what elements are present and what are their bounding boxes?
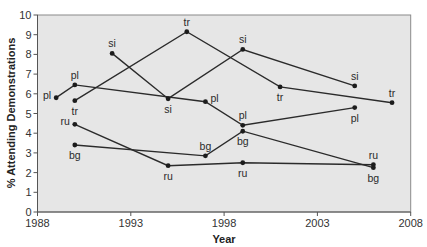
- point-label: pl: [43, 89, 51, 101]
- point-label: si: [351, 70, 359, 82]
- point-label: ru: [369, 149, 378, 161]
- y-tick-label: 8: [25, 48, 31, 60]
- y-tick-label: 5: [25, 108, 31, 120]
- data-point: [390, 100, 395, 105]
- data-point: [352, 105, 357, 110]
- point-label: pl: [351, 112, 359, 124]
- data-point: [72, 122, 77, 127]
- point-label: pl: [239, 109, 247, 121]
- data-point: [72, 83, 77, 88]
- data-point: [166, 163, 171, 168]
- point-label: bg: [237, 135, 249, 147]
- data-point: [240, 47, 245, 52]
- data-point: [371, 165, 376, 170]
- point-label: pl: [71, 69, 79, 81]
- data-point: [352, 84, 357, 89]
- point-label: tr: [184, 16, 191, 28]
- point-label: si: [108, 37, 116, 49]
- point-label: bg: [69, 149, 81, 161]
- x-tick-label: 1988: [25, 217, 49, 229]
- data-point: [54, 95, 59, 100]
- data-point: [72, 98, 77, 103]
- point-label: bg: [200, 140, 212, 152]
- data-point: [240, 160, 245, 165]
- y-tick-label: 9: [25, 29, 31, 41]
- data-point: [203, 153, 208, 158]
- data-point: [72, 143, 77, 148]
- point-label: tr: [389, 87, 396, 99]
- point-label: tr: [277, 91, 284, 103]
- point-label: bg: [368, 172, 380, 184]
- point-label: si: [239, 33, 247, 45]
- point-label: pl: [210, 92, 218, 104]
- y-tick-label: 7: [25, 68, 31, 80]
- point-label: tr: [72, 105, 79, 117]
- x-tick-label: 1993: [119, 217, 143, 229]
- y-tick-label: 2: [25, 167, 31, 179]
- x-tick-label: 2008: [398, 217, 422, 229]
- data-point: [110, 51, 115, 56]
- line-chart: 012345678910 19881993199820032008 plplpl…: [0, 0, 427, 247]
- data-point: [278, 85, 283, 90]
- x-tick-label: 2003: [305, 217, 329, 229]
- point-label: ru: [238, 167, 247, 179]
- x-tick-label: 1998: [212, 217, 236, 229]
- y-tick-label: 1: [25, 186, 31, 198]
- data-point: [184, 29, 189, 34]
- y-tick-label: 10: [19, 9, 31, 21]
- y-tick-label: 6: [25, 88, 31, 100]
- x-axis: 19881993199820032008: [25, 212, 423, 229]
- point-label: si: [164, 103, 172, 115]
- y-tick-label: 3: [25, 147, 31, 159]
- point-label: ru: [163, 170, 172, 182]
- data-point: [166, 96, 171, 101]
- data-point: [240, 129, 245, 134]
- data-point: [203, 99, 208, 104]
- y-axis: 012345678910: [19, 9, 37, 218]
- y-axis-title: % Attending Demonstrations: [5, 38, 17, 189]
- point-label: ru: [60, 115, 69, 127]
- y-tick-label: 4: [25, 127, 31, 139]
- data-point: [240, 123, 245, 128]
- x-axis-title: Year: [212, 233, 236, 245]
